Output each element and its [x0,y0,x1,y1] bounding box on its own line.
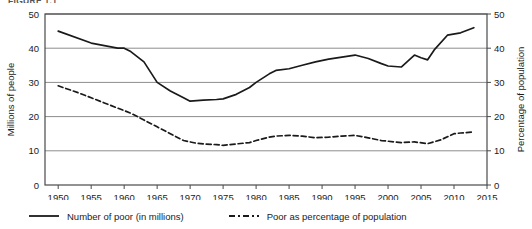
plot-frame [45,14,487,185]
legend-swatch-solid-line-icon [28,211,60,221]
y2-axis-tick-label: 10 [494,145,505,156]
series-line-2 [58,86,474,146]
x-axis-tick-label: 1970 [180,192,201,200]
y2-axis-tick-label: 40 [494,43,505,54]
chart-canvas: 1950195519601965197019751980198519901995… [0,0,532,200]
y-axis-title: Millions of people [5,63,16,136]
data-series-group [58,28,474,146]
legend-item-poor-percentage: Poor as percentage of population [228,211,407,222]
y-axis-tick-label: 30 [28,77,39,88]
series-line-1 [58,28,474,102]
y-axis-tick-label: 10 [28,145,39,156]
x-axis-tick-label: 1965 [147,192,168,200]
x-axis-tick-label: 1950 [48,192,69,200]
y-axis-tick-label: 40 [28,43,39,54]
x-axis-tick-label: 1980 [246,192,267,200]
x-axis-tick-label: 1995 [344,192,365,200]
x-axis-tick-label: 2010 [443,192,464,200]
line-chart: 1950195519601965197019751980198519901995… [0,0,532,200]
y2-axis-tick-label: 0 [494,180,499,191]
y-axis-tick-label: 50 [28,9,39,20]
plot-border [45,14,487,185]
x-axis-tick-label: 2015 [476,192,497,200]
figure-root: FIGURE 1.1 19501955196019651970197519801… [0,0,532,229]
gridlines-group [45,14,487,151]
legend-label-poor-percentage: Poor as percentage of population [267,211,407,222]
legend-swatch-dashed-line-icon [228,211,260,221]
x-axis-tick-label: 1975 [213,192,234,200]
y-axis-tick-label: 0 [34,180,39,191]
x-axis-tick-label: 1990 [312,192,333,200]
x-axis-tick-label: 2000 [377,192,398,200]
legend-item-number-of-poor: Number of poor (in millions) [28,211,184,222]
y-axis-tick-label: 20 [28,111,39,122]
x-axis-tick-label: 1955 [81,192,102,200]
y2-axis-tick-label: 30 [494,77,505,88]
y2-axis-tick-label: 20 [494,111,505,122]
chart-legend: Number of poor (in millions) Poor as per… [0,203,532,229]
y2-axis-title: Percentage of population [515,47,526,153]
x-axis-tick-label: 2005 [410,192,431,200]
x-axis-tick-label: 1960 [114,192,135,200]
x-axis-tick-label: 1985 [279,192,300,200]
axis-labels-group: 1950195519601965197019751980198519901995… [5,9,526,201]
axis-ticks-group [58,14,491,189]
y2-axis-tick-label: 50 [494,9,505,20]
legend-label-number-of-poor: Number of poor (in millions) [67,211,184,222]
